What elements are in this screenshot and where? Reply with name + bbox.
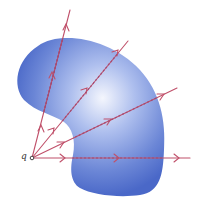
gauss-surface-diagram	[0, 0, 199, 206]
point-charge	[30, 156, 34, 160]
arrow-icon	[48, 128, 54, 134]
charge-label: q	[21, 151, 27, 161]
closed-surface	[17, 38, 164, 196]
